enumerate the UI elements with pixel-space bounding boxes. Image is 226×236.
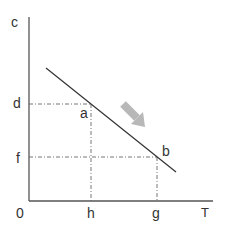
diagram-canvas [0,0,226,236]
arrow-icon [123,104,145,127]
y-axis-label: c [11,15,18,29]
x-tick-h: h [87,206,95,220]
point-a-label: a [80,106,88,120]
y-tick-d: d [13,96,21,110]
x-tick-g: g [152,206,160,220]
x-axis-label: T [201,206,209,219]
origin-label: 0 [16,206,24,220]
point-b-label: b [162,144,170,158]
y-tick-f: f [16,151,20,165]
demand-line [46,68,176,172]
